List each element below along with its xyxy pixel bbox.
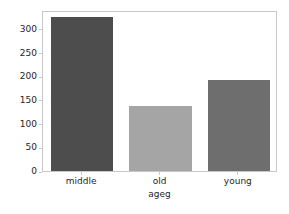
bar-middle: [51, 17, 114, 171]
y-axis-ticks: 050100150200250300: [0, 11, 42, 172]
x-tick-mark: [237, 172, 238, 175]
y-tick-label: 250: [20, 48, 37, 59]
plot-axes: [42, 11, 277, 172]
plot-area: [43, 12, 276, 171]
y-tick-label: 300: [20, 24, 37, 35]
y-tick-label: 150: [20, 95, 37, 106]
x-tick-mark: [159, 172, 160, 175]
y-tick-label: 100: [20, 119, 37, 130]
x-tick-label: young: [224, 176, 252, 187]
bar-old: [129, 106, 192, 171]
x-tick-label: old: [153, 176, 167, 187]
x-axis-label: ageg: [42, 189, 277, 200]
y-tick-label: 200: [20, 71, 37, 82]
x-tick-label: middle: [66, 176, 97, 187]
bar-chart-figure: 050100150200250300 middleoldyoung ageg m…: [0, 0, 289, 214]
y-tick-label: 50: [26, 142, 37, 153]
x-tick-mark: [81, 172, 82, 175]
y-tick-label: 0: [31, 166, 37, 177]
bar-young: [208, 80, 271, 171]
